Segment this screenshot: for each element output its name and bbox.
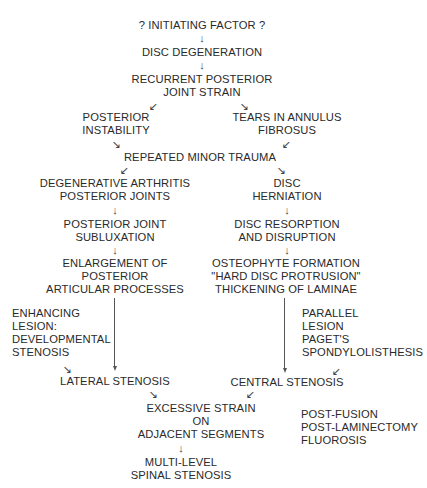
node-text: POSTERIOR JOINTS — [40, 190, 190, 203]
node-text: POSTERIOR JOINT — [64, 218, 167, 231]
node-enhancing-lesion: ENHANCING LESION: DEVELOPMENTAL STENOSIS — [12, 307, 111, 359]
node-text: PARALLEL — [302, 307, 423, 320]
node-text: POST-FUSION — [301, 408, 418, 421]
arrow-down-left-icon: ↙ — [245, 389, 254, 400]
node-text: POSTERIOR — [46, 270, 184, 283]
node-text: LESION — [302, 320, 423, 333]
node-text: ARTICULAR PROCESSES — [46, 283, 184, 296]
arrow-down-icon: ↓ — [284, 245, 290, 256]
node-repeated-trauma: REPEATED MINOR TRAUMA — [124, 151, 276, 164]
node-enlargement: ENLARGEMENT OF POSTERIOR ARTICULAR PROCE… — [46, 257, 184, 296]
arrow-down-right-icon: ↘ — [148, 389, 157, 400]
node-text: DISC — [252, 177, 321, 190]
node-recurrent-strain: RECURRENT POSTERIOR JOINT STRAIN — [132, 73, 273, 99]
node-text: POST-LAMINECTOMY — [301, 421, 418, 434]
arrow-down-right-icon: ↘ — [62, 364, 71, 375]
node-text: RECURRENT POSTERIOR — [132, 73, 273, 86]
arrow-head-icon — [113, 366, 117, 371]
arrow-down-right-icon: ↘ — [276, 165, 285, 176]
node-text: TEARS IN ANNULUS — [232, 111, 341, 124]
node-text: SUBLUXATION — [64, 231, 167, 244]
node-text: INSTABILITY — [82, 124, 149, 137]
long-arrow-right-line — [284, 298, 285, 368]
node-text: AND DISRUPTION — [234, 231, 339, 244]
node-text: PAGET'S — [302, 333, 423, 346]
arrow-down-icon: ↓ — [178, 443, 184, 454]
arrow-down-icon: ↓ — [284, 205, 290, 216]
long-arrow-left-line — [114, 298, 115, 366]
node-text: STENOSIS — [12, 346, 111, 359]
node-post-fusion: POST-FUSION POST-LAMINECTOMY FLUOROSIS — [301, 408, 418, 447]
node-text: SPINAL STENOSIS — [131, 469, 232, 482]
arrow-down-left-icon: ↙ — [148, 101, 157, 112]
node-text: "HARD DISC PROTRUSION" — [211, 270, 360, 283]
node-text: LESION: — [12, 320, 111, 333]
node-multilevel-stenosis: MULTI-LEVEL SPINAL STENOSIS — [131, 456, 232, 482]
node-text: FIBROSUS — [232, 124, 341, 137]
node-text: OSTEOPHYTE FORMATION — [211, 257, 360, 270]
arrow-down-right-icon: ↘ — [111, 139, 120, 150]
node-disc-degeneration: DISC DEGENERATION — [142, 46, 262, 59]
node-disc-herniation: DISC HERNIATION — [252, 177, 321, 203]
node-osteophyte: OSTEOPHYTE FORMATION "HARD DISC PROTRUSI… — [211, 257, 360, 296]
node-text: SPONDYLOLISTHESIS — [302, 346, 423, 359]
node-text: ? INITIATING FACTOR ? — [139, 19, 266, 32]
node-text: HERNIATION — [252, 190, 321, 203]
arrow-down-icon: ↓ — [199, 60, 205, 71]
node-text: ADJACENT SEGMENTS — [138, 428, 264, 441]
node-excessive-strain: EXCESSIVE STRAIN ON ADJACENT SEGMENTS — [138, 402, 264, 441]
arrow-down-left-icon: ↙ — [281, 139, 290, 150]
node-text: DEGENERATIVE ARTHRITIS — [40, 177, 190, 190]
node-text: DEVELOPMENTAL — [12, 333, 111, 346]
node-degenerative-arthritis: DEGENERATIVE ARTHRITIS POSTERIOR JOINTS — [40, 177, 190, 203]
node-posterior-instability: POSTERIOR INSTABILITY — [82, 111, 149, 137]
node-text: THICKENING OF LAMINAE — [211, 283, 360, 296]
arrow-down-icon: ↓ — [112, 205, 118, 216]
node-lateral-stenosis: LATERAL STENOSIS — [60, 375, 170, 388]
node-text: REPEATED MINOR TRAUMA — [124, 151, 276, 164]
node-text: POSTERIOR — [82, 111, 149, 124]
node-text: LATERAL STENOSIS — [60, 375, 170, 388]
arrow-head-icon — [283, 368, 287, 373]
node-text: ENLARGEMENT OF — [46, 257, 184, 270]
node-text: FLUOROSIS — [301, 434, 418, 447]
arrow-down-left-icon: ↙ — [119, 165, 128, 176]
node-disc-resorption: DISC RESORPTION AND DISRUPTION — [234, 218, 339, 244]
node-text: EXCESSIVE STRAIN — [138, 402, 264, 415]
arrow-down-icon: ↓ — [112, 245, 118, 256]
node-parallel-lesion: PARALLEL LESION PAGET'S SPONDYLOLISTHESI… — [302, 307, 423, 359]
node-initiating-factor: ? INITIATING FACTOR ? — [139, 19, 266, 32]
node-text: ENHANCING — [12, 307, 111, 320]
arrow-down-icon: ↓ — [199, 33, 205, 44]
node-text: DISC RESORPTION — [234, 218, 339, 231]
node-text: DISC DEGENERATION — [142, 46, 262, 59]
node-text: MULTI-LEVEL — [131, 456, 232, 469]
node-text: ON — [138, 415, 264, 428]
node-posterior-subluxation: POSTERIOR JOINT SUBLUXATION — [64, 218, 167, 244]
node-text: JOINT STRAIN — [132, 86, 273, 99]
node-tears-annulus: TEARS IN ANNULUS FIBROSUS — [232, 111, 341, 137]
